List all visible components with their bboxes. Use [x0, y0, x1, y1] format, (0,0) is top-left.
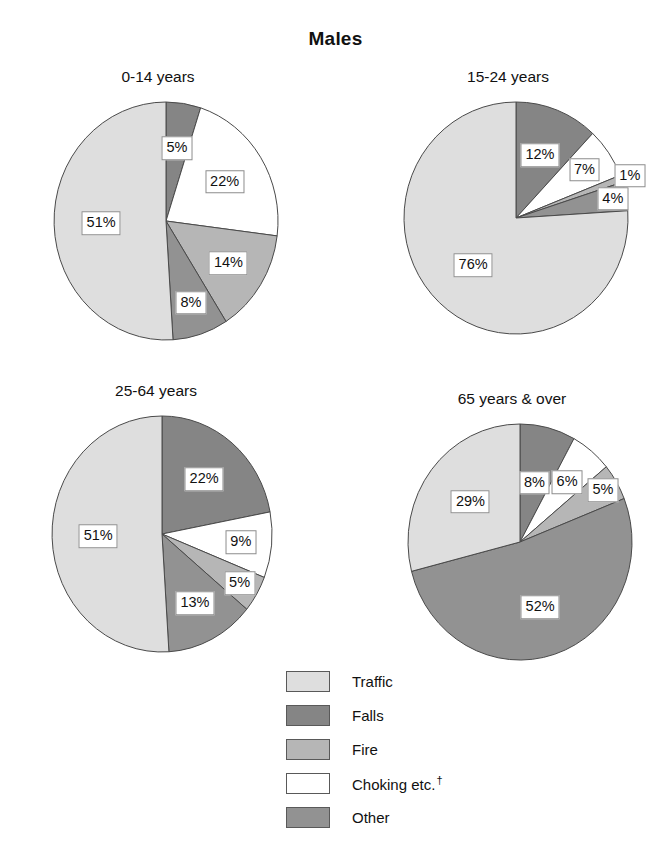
legend-label-choking: Choking etc.†: [352, 775, 443, 792]
pie-slice-label: 51%: [82, 211, 121, 235]
pie-chart-15-24-years: 12%7%1%4%76%: [398, 96, 634, 340]
pie-slice-label: 5%: [587, 479, 618, 503]
legend-item-choking: Choking etc.†: [286, 766, 546, 800]
pie-slice-label: 5%: [224, 572, 255, 596]
pie-slice-label: 13%: [175, 592, 214, 616]
page-title: Males: [0, 28, 671, 50]
pie-slice-label: 76%: [454, 254, 493, 278]
dagger-icon: †: [436, 774, 442, 786]
pie-chart-65-years-and-over: 8%6%5%52%29%: [402, 418, 638, 666]
pie-slice-label: 9%: [225, 530, 256, 554]
pie-chart-25-64-years: 22%9%5%13%51%: [46, 410, 278, 658]
legend-label-choking-text: Choking etc.: [352, 776, 435, 793]
legend-label-fire: Fire: [352, 742, 378, 757]
legend-swatch-traffic: [286, 671, 330, 692]
panel-title: 25-64 years: [28, 382, 284, 400]
panel-title: 15-24 years: [380, 68, 636, 86]
pie-slice-label: 14%: [209, 251, 248, 275]
pie-slice-label: 52%: [521, 595, 560, 619]
legend-label-other: Other: [352, 810, 390, 825]
pie-panel-25-64-years: 25-64 years 22%9%5%13%51%: [28, 382, 284, 672]
chart-page: Males 0-14 years 5%22%14%8%51% 15-24 yea…: [0, 0, 671, 847]
pie-slice-label: 8%: [175, 291, 206, 315]
pie-slice-label: 8%: [519, 471, 550, 495]
pie-slice-label: 12%: [520, 144, 559, 168]
legend-item-traffic: Traffic: [286, 664, 546, 698]
pie-panel-0-14-years: 0-14 years 5%22%14%8%51%: [30, 68, 286, 358]
legend-swatch-other: [286, 807, 330, 828]
legend-item-falls: Falls: [286, 698, 546, 732]
legend-swatch-fire: [286, 739, 330, 760]
pie-slice-label: 51%: [79, 524, 118, 548]
legend-label-falls: Falls: [352, 708, 384, 723]
pie-slice-label: 1%: [614, 164, 645, 188]
pie-slice-label: 6%: [552, 470, 583, 494]
pie-slice-label: 22%: [185, 468, 224, 492]
panel-title: 65 years & over: [384, 390, 640, 408]
pie-slice-label: 4%: [597, 187, 628, 211]
pie-slice-label: 22%: [205, 170, 244, 194]
pie-slice-label: 7%: [569, 158, 600, 182]
pie-panel-15-24-years: 15-24 years 12%7%1%4%76%: [380, 68, 636, 358]
pie-slice-label: 5%: [161, 136, 192, 160]
legend: Traffic Falls Fire Choking etc.† Other: [286, 664, 546, 834]
legend-swatch-choking: [286, 773, 330, 794]
pie-panel-65-years-and-over: 65 years & over 8%6%5%52%29%: [384, 390, 640, 680]
pie-slice-label: 29%: [451, 490, 490, 514]
pie-chart-0-14-years: 5%22%14%8%51%: [48, 96, 284, 346]
panel-title: 0-14 years: [30, 68, 286, 86]
legend-swatch-falls: [286, 705, 330, 726]
legend-item-other: Other: [286, 800, 546, 834]
legend-label-traffic: Traffic: [352, 674, 393, 689]
legend-item-fire: Fire: [286, 732, 546, 766]
